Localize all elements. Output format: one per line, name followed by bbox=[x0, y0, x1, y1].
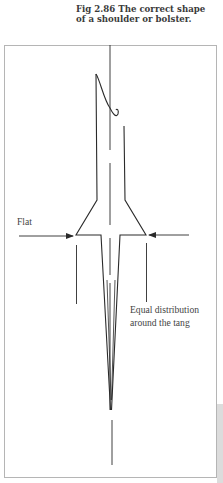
blade-outline-left bbox=[76, 74, 111, 410]
label-flat: Flat bbox=[17, 216, 32, 228]
figure-frame bbox=[5, 46, 217, 478]
blade-outline-right bbox=[112, 126, 147, 410]
label-equal-distribution-line-2: around the tang bbox=[130, 317, 190, 329]
blade-break-curve bbox=[96, 74, 118, 116]
tang-lines bbox=[107, 280, 115, 400]
label-equal-distribution-line-1: Equal distribution bbox=[130, 304, 199, 316]
page-edge-strip bbox=[217, 404, 223, 483]
bolster-diagram bbox=[0, 0, 223, 483]
